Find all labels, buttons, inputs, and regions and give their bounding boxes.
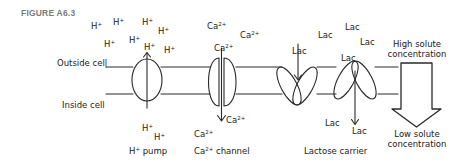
h-ion-outside: H+ [104,40,115,49]
membrane-transport-figure: FIGURE A6.3 [0,0,460,163]
h-pump-protein [132,53,162,109]
h-ion-inside: H+ [142,124,153,133]
ca-ion-outside: Ca2+ [240,31,259,40]
lac-molecule-inside: Lac [352,127,367,136]
lac-molecule-outside: Lac [318,31,333,40]
lac-molecule-outside: Lac [292,47,307,56]
h-ion-outside: H+ [158,27,169,36]
gradient-arrow [392,63,441,127]
ca-ion-outside: Ca2+ [214,44,233,53]
h-pump-caption: H+ pump [129,147,167,156]
inside-cell-label: Inside cell [62,101,105,110]
lactose-carrier-caption: Lactose carrier [304,147,367,156]
lactose-carrier-open-inside [329,58,381,125]
h-ion-outside: H+ [113,18,124,27]
ca-channel-caption: Ca2+ channel [194,147,250,156]
h-ion-outside: H+ [144,43,155,52]
ca-ion-outside: Ca2+ [207,22,226,31]
h-ion-outside: H+ [91,22,102,31]
ca-ion-inside: Ca2+ [226,116,245,125]
ca-ion-inside: Ca2+ [194,130,213,139]
h-ion-outside: H+ [164,46,175,55]
outside-cell-label: Outside cell [57,59,107,68]
ca-channel-protein [209,48,237,121]
h-ion-outside: H+ [142,18,153,27]
lac-molecule-outside: Lac [345,23,360,32]
h-ion-outside: H+ [129,36,140,45]
lac-molecule-outside: Lac [341,54,356,63]
low-solute-label: Low solute concentration [386,130,448,148]
high-solute-label: High solute concentration [386,40,448,58]
lac-molecule-outside: Lac [360,38,375,47]
h-ion-inside: H+ [154,133,165,142]
lac-molecule-inside: Lac [325,119,340,128]
